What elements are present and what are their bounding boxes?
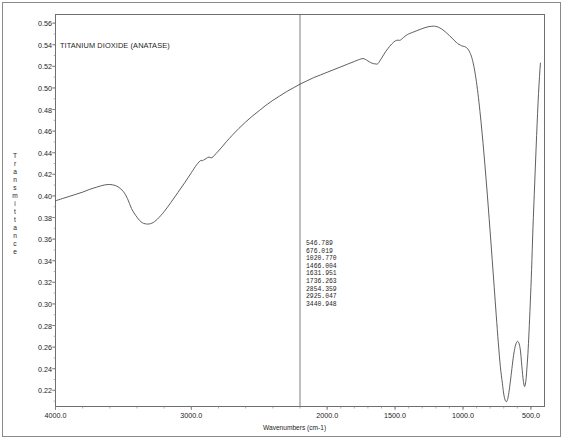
x-tick-label: 1500.0 (372, 411, 418, 420)
peak-value-list: 546.789676.0191020.7701466.0041631.95117… (306, 240, 337, 308)
spectrum-trace (56, 26, 541, 402)
y-axis-label-char: c (10, 240, 20, 248)
y-axis-label-char: e (10, 248, 20, 256)
y-axis-label-char: T (10, 152, 20, 160)
x-tick-label: 500.0 (508, 411, 554, 420)
y-tick-label: 0.34 (20, 257, 52, 266)
peak-value: 2925.047 (306, 293, 337, 301)
y-tick-label: 0.50 (20, 84, 52, 93)
y-tick-label: 0.40 (20, 192, 52, 201)
y-axis-label-char: m (10, 192, 20, 200)
y-tick-label: 0.22 (20, 386, 52, 395)
y-tick-label: 0.26 (20, 343, 52, 352)
x-axis-title: Wavenumbers (cm-1) (263, 424, 326, 431)
peak-value: 1631.951 (306, 270, 337, 278)
y-axis-label-char: r (10, 160, 20, 168)
x-tick-marks (56, 407, 531, 410)
y-axis-label-char: t (10, 216, 20, 224)
y-tick-label: 0.44 (20, 149, 52, 158)
y-axis-label-char: s (10, 184, 20, 192)
y-tick-label: 0.38 (20, 214, 52, 223)
y-tick-label: 0.52 (20, 62, 52, 71)
y-tick-label: 0.54 (20, 41, 52, 50)
peak-value: 546.789 (306, 240, 337, 248)
y-axis-label-char: t (10, 208, 20, 216)
y-tick-label: 0.48 (20, 106, 52, 115)
x-tick-label: 3000.0 (168, 411, 214, 420)
y-tick-label: 0.56 (20, 19, 52, 28)
y-tick-label: 0.36 (20, 235, 52, 244)
spectrum-plot (0, 0, 565, 441)
x-tick-label: 2000.0 (304, 411, 350, 420)
y-tick-label: 0.46 (20, 127, 52, 136)
y-tick-label: 0.24 (20, 365, 52, 374)
y-axis-label-char: i (10, 200, 20, 208)
y-tick-label: 0.42 (20, 170, 52, 179)
y-axis-label-char: n (10, 176, 20, 184)
x-tick-label: 4000.0 (33, 411, 79, 420)
peak-value: 676.019 (306, 248, 337, 256)
ir-spectrum-page: TITANIUM DIOXIDE (ANATASE) Transmittance… (0, 0, 565, 441)
peak-value: 1466.004 (306, 263, 337, 271)
spectrum-title: TITANIUM DIOXIDE (ANATASE) (60, 41, 170, 50)
x-tick-label: 1000.0 (440, 411, 486, 420)
y-tick-label: 0.32 (20, 278, 52, 287)
y-axis-label-char: a (10, 168, 20, 176)
peak-value: 1020.770 (306, 255, 337, 263)
y-tick-label: 0.28 (20, 322, 52, 331)
y-axis-label: Transmittance (10, 152, 20, 256)
y-axis-label-char: n (10, 232, 20, 240)
peak-value: 1736.263 (306, 278, 337, 286)
y-axis-label-char: a (10, 224, 20, 232)
peak-value: 3440.948 (306, 301, 337, 309)
y-tick-label: 0.30 (20, 300, 52, 309)
peak-value: 2854.359 (306, 286, 337, 294)
